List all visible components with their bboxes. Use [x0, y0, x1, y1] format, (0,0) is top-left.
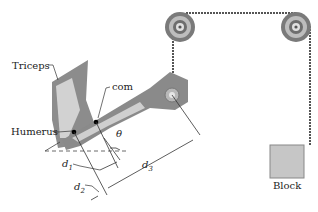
label-triceps: Triceps [12, 60, 50, 71]
label-theta: θ [116, 128, 122, 139]
label-d3: d3 [142, 159, 153, 173]
diagram-canvas: Triceps com Humerus θ d1 d2 d3 Block [0, 0, 318, 212]
pulley-right [281, 12, 311, 42]
label-com: com [112, 81, 134, 92]
label-d2: d2 [74, 181, 85, 195]
pulley-left [165, 12, 195, 42]
dimension-lines [91, 140, 193, 200]
label-humerus: Humerus [11, 126, 58, 137]
label-d1: d1 [62, 158, 73, 172]
label-block: Block [273, 180, 302, 191]
arm-pulley-diagram: Triceps com Humerus θ d1 d2 d3 Block [0, 0, 318, 212]
block [270, 145, 304, 178]
